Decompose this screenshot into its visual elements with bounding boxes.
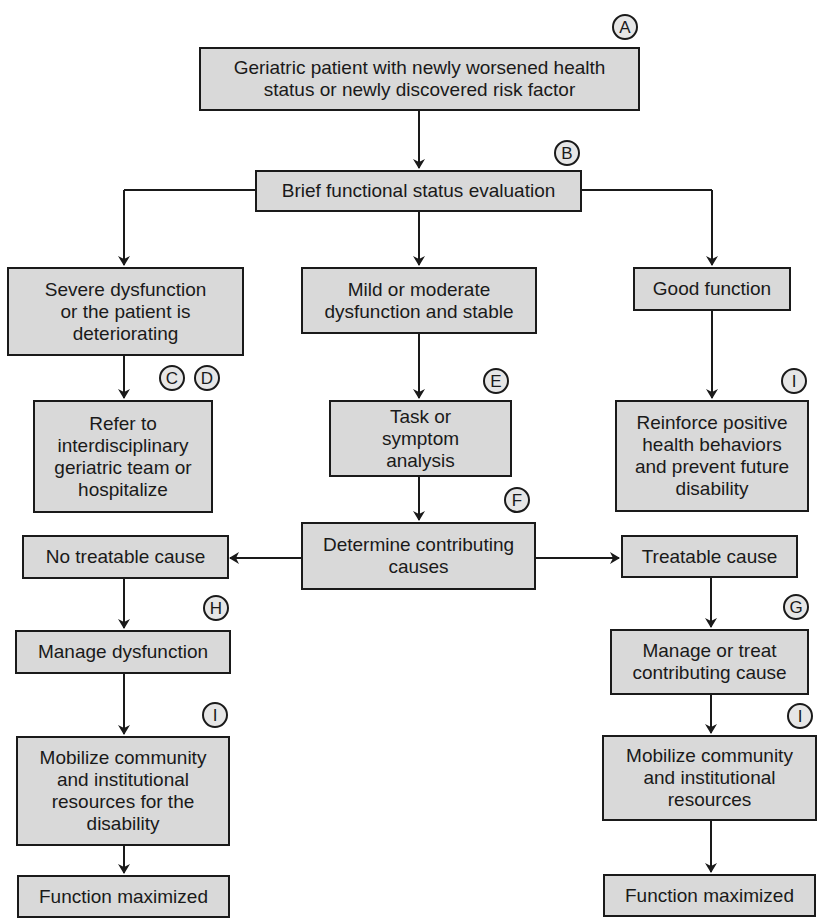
node-manage-dysfunction-label: Manage dysfunction <box>38 641 208 663</box>
node-treatable: Treatable cause <box>621 535 798 578</box>
node-mobilize-left-label: Mobilize community and institutional res… <box>24 747 222 835</box>
node-manage-dysfunction: Manage dysfunction <box>15 630 231 674</box>
node-function-maximized-left: Function maximized <box>17 875 230 918</box>
flowchart: Geriatric patient with newly worsened he… <box>0 0 825 922</box>
node-mobilize-right-label: Mobilize community and institutional res… <box>610 745 809 811</box>
node-treatable-label: Treatable cause <box>642 546 778 568</box>
node-eval: Brief functional status evaluation <box>255 170 582 212</box>
node-manage-treat: Manage or treat contributing cause <box>610 629 809 695</box>
node-reinforce: Reinforce positive health behaviors and … <box>615 400 809 512</box>
node-mobilize-right: Mobilize community and institutional res… <box>602 735 817 821</box>
node-reinforce-label: Reinforce positive health behaviors and … <box>631 412 793 500</box>
tag-i-mobilize-right: I <box>787 703 813 729</box>
node-function-maximized-right: Function maximized <box>603 874 816 917</box>
node-mild-label: Mild or moderate dysfunction and stable <box>309 279 529 323</box>
node-severe-label: Severe dysfunction or the patient is det… <box>39 279 212 345</box>
tag-c: C <box>159 365 185 391</box>
tag-i-mobilize-left: I <box>202 702 228 728</box>
node-good-label: Good function <box>653 278 771 300</box>
node-refer: Refer to interdisciplinary geriatric tea… <box>33 400 213 513</box>
node-start: Geriatric patient with newly worsened he… <box>199 47 640 111</box>
node-good: Good function <box>633 267 791 311</box>
node-eval-label: Brief functional status evaluation <box>282 180 556 202</box>
tag-g: G <box>783 594 809 620</box>
node-task: Task or symptom analysis <box>329 400 512 477</box>
tag-i-reinforce: I <box>781 368 807 394</box>
node-mobilize-left: Mobilize community and institutional res… <box>16 736 230 846</box>
tag-d: D <box>194 365 220 391</box>
node-no-treatable: No treatable cause <box>22 535 229 579</box>
node-manage-treat-label: Manage or treat contributing cause <box>618 640 801 684</box>
node-function-maximized-left-label: Function maximized <box>39 886 208 908</box>
node-no-treatable-label: No treatable cause <box>46 546 206 568</box>
node-mild: Mild or moderate dysfunction and stable <box>301 267 537 334</box>
node-refer-label: Refer to interdisciplinary geriatric tea… <box>41 413 205 501</box>
tag-h: H <box>203 595 229 621</box>
node-task-label: Task or symptom analysis <box>349 406 492 472</box>
node-function-maximized-right-label: Function maximized <box>625 885 794 907</box>
tag-f: F <box>504 487 530 513</box>
node-determine: Determine contributing causes <box>301 522 536 590</box>
tag-a: A <box>612 14 638 40</box>
node-start-label: Geriatric patient with newly worsened he… <box>207 57 632 101</box>
tag-e: E <box>483 368 509 394</box>
node-severe: Severe dysfunction or the patient is det… <box>7 267 244 356</box>
tag-b: B <box>554 140 580 166</box>
node-determine-label: Determine contributing causes <box>309 534 528 578</box>
